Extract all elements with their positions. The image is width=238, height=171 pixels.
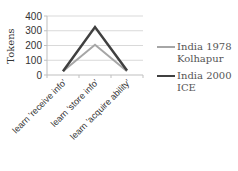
y-tick-label: 100 — [25, 55, 42, 66]
y-axis-label: Tokens — [5, 28, 16, 63]
y-axis-ticks: 0100200300400 — [25, 11, 42, 81]
legend-label: India 2000 ICE — [177, 70, 238, 94]
legend-label: India 1978 Kolhapur — [177, 41, 238, 65]
y-tick-label: 0 — [36, 70, 42, 81]
x-tick-label: learn 'acquire ability' — [68, 77, 133, 142]
series-line — [63, 27, 127, 71]
y-tick-label: 300 — [25, 25, 42, 36]
data-series — [63, 27, 127, 71]
y-tick-label: 200 — [25, 40, 42, 51]
legend-swatch-gray — [157, 46, 175, 48]
x-axis-ticks: learn 'receive info'learn 'store info'le… — [10, 77, 132, 142]
x-tick-label: learn 'receive info' — [10, 77, 68, 135]
legend-swatch-dark — [157, 75, 175, 77]
y-tick-label: 400 — [25, 11, 42, 22]
